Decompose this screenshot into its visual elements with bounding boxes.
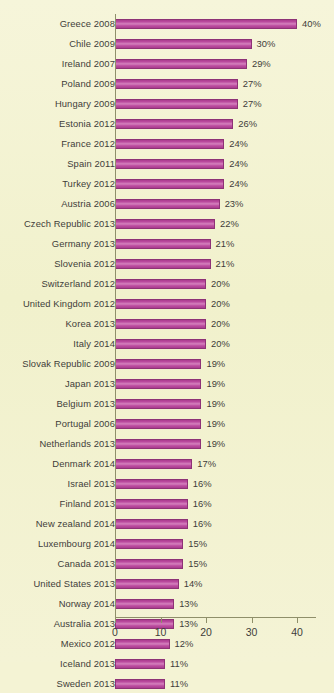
bar-track: 30% xyxy=(115,34,334,54)
x-axis-tick xyxy=(297,617,298,623)
bar-value-label: 21% xyxy=(211,254,235,274)
x-axis-tick-label: 40 xyxy=(291,626,303,638)
bar-category-label: Greece 2008 xyxy=(3,14,115,34)
bar-category-label: Iceland 2013 xyxy=(3,654,115,674)
bar-value-label: 24% xyxy=(224,154,248,174)
bar-track: 19% xyxy=(115,394,334,414)
bar-category-label: Denmark 2014 xyxy=(3,454,115,474)
bar xyxy=(115,119,233,129)
bar-track: 21% xyxy=(115,234,334,254)
bar-category-label: Korea 2013 xyxy=(3,314,115,334)
bar-category-label: United States 2013 xyxy=(3,574,115,594)
bar-track: 24% xyxy=(115,154,334,174)
bar-row: Switzerland 201220% xyxy=(0,274,334,294)
bar-value-label: 12% xyxy=(170,634,194,654)
bar xyxy=(115,39,252,49)
bar-row: Austria 200623% xyxy=(0,194,334,214)
bar-track: 21% xyxy=(115,254,334,274)
bar-value-label: 40% xyxy=(297,14,321,34)
bar-category-label: Germany 2013 xyxy=(3,234,115,254)
bar-row: Estonia 201226% xyxy=(0,114,334,134)
bar-value-label: 15% xyxy=(183,534,207,554)
bar-track: 20% xyxy=(115,334,334,354)
bar-value-label: 15% xyxy=(183,554,207,574)
bar xyxy=(115,379,201,389)
bar xyxy=(115,99,238,109)
bar-rows: Greece 200840%Chile 200930%Ireland 20072… xyxy=(0,14,334,693)
bar xyxy=(115,299,206,309)
bar-value-label: 11% xyxy=(165,674,188,693)
bar xyxy=(115,639,170,649)
bar-row: Slovenia 201221% xyxy=(0,254,334,274)
bar xyxy=(115,139,224,149)
bar-value-label: 19% xyxy=(201,374,225,394)
bar xyxy=(115,499,188,509)
bar-value-label: 29% xyxy=(247,54,271,74)
bar xyxy=(115,159,224,169)
bar xyxy=(115,359,201,369)
bar xyxy=(115,179,224,189)
bar-row: Japan 201319% xyxy=(0,374,334,394)
bar-value-label: 19% xyxy=(201,354,225,374)
bar-value-label: 27% xyxy=(238,74,262,94)
bar-category-label: New zealand 2014 xyxy=(3,514,115,534)
bar xyxy=(115,419,201,429)
bar-row: Germany 201321% xyxy=(0,234,334,254)
x-axis-tick xyxy=(161,617,162,623)
bar-value-label: 19% xyxy=(201,394,225,414)
bar xyxy=(115,59,247,69)
bar-track: 16% xyxy=(115,494,334,514)
bar xyxy=(115,199,220,209)
bar-track: 13% xyxy=(115,594,334,614)
bar-row: Slovak Republic 200919% xyxy=(0,354,334,374)
bar-category-label: United Kingdom 2012 xyxy=(3,294,115,314)
bar-row: Denmark 201417% xyxy=(0,454,334,474)
bar-category-label: Austria 2006 xyxy=(3,194,115,214)
x-axis-tick-label: 20 xyxy=(200,626,212,638)
bar-value-label: 24% xyxy=(224,174,248,194)
bar-track: 23% xyxy=(115,194,334,214)
bar xyxy=(115,519,188,529)
bar-category-label: Slovenia 2012 xyxy=(3,254,115,274)
bar-category-label: Belgium 2013 xyxy=(3,394,115,414)
bar-category-label: Portugal 2006 xyxy=(3,414,115,434)
bar-track: 11% xyxy=(115,674,334,693)
bar-value-label: 24% xyxy=(224,134,248,154)
bar-category-label: Italy 2014 xyxy=(3,334,115,354)
bar-value-label: 13% xyxy=(174,594,198,614)
bar-row: Norway 201413% xyxy=(0,594,334,614)
bar-value-label: 11% xyxy=(165,654,188,674)
bar-track: 14% xyxy=(115,574,334,594)
bar-track: 19% xyxy=(115,354,334,374)
bar-category-label: Chile 2009 xyxy=(3,34,115,54)
bar-row: Mexico 201212% xyxy=(0,634,334,654)
bar-category-label: Poland 2009 xyxy=(3,74,115,94)
bar-value-label: 20% xyxy=(206,314,230,334)
bar-row: Luxembourg 201415% xyxy=(0,534,334,554)
plot-area: Greece 200840%Chile 200930%Ireland 20072… xyxy=(0,14,334,614)
bar-value-label: 30% xyxy=(252,34,276,54)
bar-value-label: 14% xyxy=(179,574,203,594)
bar-value-label: 16% xyxy=(188,514,212,534)
bar-track: 20% xyxy=(115,314,334,334)
bar-category-label: Mexico 2012 xyxy=(3,634,115,654)
bar-track: 16% xyxy=(115,474,334,494)
x-axis-tick-label: 10 xyxy=(155,626,167,638)
bar xyxy=(115,659,165,669)
bar-track: 17% xyxy=(115,454,334,474)
bar xyxy=(115,259,211,269)
x-axis-tick-label: 30 xyxy=(246,626,258,638)
bar-track: 22% xyxy=(115,214,334,234)
bar-track: 20% xyxy=(115,274,334,294)
bar-category-label: Slovak Republic 2009 xyxy=(3,354,115,374)
bar-category-label: France 2012 xyxy=(3,134,115,154)
bar xyxy=(115,439,201,449)
bar-value-label: 20% xyxy=(206,274,230,294)
y-axis-line xyxy=(115,14,116,617)
bar xyxy=(115,219,215,229)
bar xyxy=(115,459,192,469)
bar-value-label: 23% xyxy=(220,194,244,214)
bar xyxy=(115,319,206,329)
bar xyxy=(115,399,201,409)
x-axis-tick-label: 0 xyxy=(112,626,118,638)
